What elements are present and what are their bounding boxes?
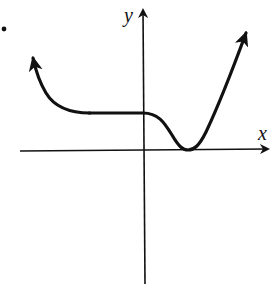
item-bullet [2,27,7,32]
y-axis-label: y [122,4,133,27]
x-axis-label: x [257,122,267,144]
function-graph: x y [0,0,280,284]
curve-right-branch [89,33,246,150]
curve-left-branch [33,58,90,113]
y-axis [143,10,145,284]
